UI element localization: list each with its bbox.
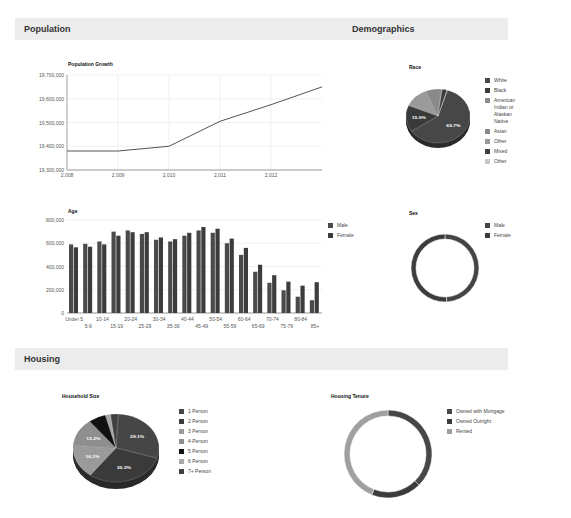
donut-slice[interactable] <box>388 410 432 485</box>
age-bar-female[interactable] <box>159 237 163 313</box>
legend-item[interactable]: Black <box>485 87 525 94</box>
age-bar-male[interactable] <box>69 244 73 313</box>
legend-item[interactable]: Asian <box>485 128 525 135</box>
age-bar-female[interactable] <box>173 239 177 313</box>
legend-item[interactable]: Mixed <box>485 148 525 155</box>
age-bar-female[interactable] <box>88 247 92 313</box>
legend-swatch <box>179 469 184 474</box>
legend-label: 7+ Person <box>188 468 211 475</box>
donut-slice[interactable] <box>344 410 388 495</box>
x-tick-label: 75-79 <box>280 323 293 329</box>
svg-text:60.7%: 60.7% <box>446 124 460 129</box>
age-bar-female[interactable] <box>145 232 149 313</box>
legend-item[interactable]: 7+ Person <box>179 468 211 475</box>
age-bar-female[interactable] <box>258 265 262 313</box>
age-bar-male[interactable] <box>197 230 201 313</box>
age-bar-male[interactable] <box>282 290 286 313</box>
legend-item[interactable]: Male <box>485 222 511 229</box>
legend-item[interactable]: Other <box>485 158 525 165</box>
y-tick-label: 600,000 <box>46 240 64 246</box>
age-bar-male[interactable] <box>168 242 172 313</box>
legend-swatch <box>179 409 184 414</box>
y-tick-label: 19,600,000 <box>39 96 64 102</box>
legend-label: Rented <box>456 428 472 435</box>
legend-label: 5 Person <box>188 448 208 455</box>
legend-swatch <box>328 233 333 238</box>
donut-slice[interactable] <box>372 481 419 498</box>
age-bar-male[interactable] <box>267 283 271 313</box>
donut-slice[interactable] <box>411 234 447 302</box>
age-bar-female[interactable] <box>187 233 191 313</box>
legend-label: 3 Person <box>188 428 208 435</box>
legend-item[interactable]: White <box>485 77 525 84</box>
age-bar-female[interactable] <box>286 282 290 313</box>
svg-text:15.9%: 15.9% <box>412 116 426 121</box>
x-tick-label: 30-34 <box>153 316 166 322</box>
x-tick-label: 2,012 <box>265 172 278 178</box>
age-bar-female[interactable] <box>102 244 106 313</box>
age-bar-male[interactable] <box>239 255 243 313</box>
legend-item[interactable]: 6 Person <box>179 458 211 465</box>
age-bar-female[interactable] <box>116 236 120 313</box>
legend-label: 1 Person <box>188 408 208 415</box>
age-bar-male[interactable] <box>296 297 300 313</box>
legend-label: White <box>494 77 507 84</box>
age-bar-female[interactable] <box>201 227 205 313</box>
legend-label: Female <box>337 232 354 239</box>
age-bar-male[interactable] <box>126 230 130 313</box>
race-pie-chart: 60.7%15.9% <box>404 86 484 166</box>
x-tick-label: 40-44 <box>181 316 194 322</box>
sex-legend: MaleFemale <box>485 222 511 242</box>
legend-swatch <box>485 129 490 134</box>
legend-item[interactable]: 3 Person <box>179 428 211 435</box>
age-bar-male[interactable] <box>140 234 144 313</box>
legend-item[interactable]: 5 Person <box>179 448 211 455</box>
age-bar-female[interactable] <box>230 239 234 313</box>
legend-swatch <box>447 409 452 414</box>
x-tick-label: 60-64 <box>238 316 251 322</box>
legend-swatch <box>485 88 490 93</box>
age-bar-female[interactable] <box>130 232 134 313</box>
x-tick-label: 2,010 <box>163 172 176 178</box>
legend-item[interactable]: Other <box>485 138 525 145</box>
legend-item[interactable]: Female <box>485 232 511 239</box>
age-bar-female[interactable] <box>215 229 219 313</box>
legend-item[interactable]: American Indian or Alaskan Native <box>485 97 525 125</box>
legend-swatch <box>179 439 184 444</box>
age-bar-female[interactable] <box>74 247 78 313</box>
legend-item[interactable]: Owned with Mortgage <box>447 408 505 415</box>
age-bar-female[interactable] <box>244 248 248 313</box>
age-bar-male[interactable] <box>211 233 215 313</box>
race-legend: WhiteBlackAmerican Indian or Alaskan Nat… <box>485 77 525 168</box>
age-bar-female[interactable] <box>272 275 276 313</box>
age-bar-male[interactable] <box>112 232 116 313</box>
legend-item[interactable]: 4 Person <box>179 438 211 445</box>
population-growth-title: Population Growth <box>68 61 113 67</box>
x-tick-label: 80-84 <box>294 316 307 322</box>
age-bar-male[interactable] <box>225 243 229 313</box>
age-bar-female[interactable] <box>315 282 319 313</box>
legend-item[interactable]: 1 Person <box>179 408 211 415</box>
age-bar-male[interactable] <box>97 242 101 313</box>
age-bar-male[interactable] <box>253 272 257 313</box>
legend-item[interactable]: Owned Outright <box>447 418 505 425</box>
x-tick-label: 25-29 <box>139 323 152 329</box>
sex-donut-chart <box>409 232 481 304</box>
donut-slice[interactable] <box>445 234 479 302</box>
y-tick-label: 800,000 <box>46 217 64 223</box>
age-bar-female[interactable] <box>300 286 304 313</box>
x-tick-label: 2,009 <box>112 172 125 178</box>
age-bar-male[interactable] <box>83 244 87 313</box>
age-bar-male[interactable] <box>310 300 314 313</box>
x-tick-label: 65-69 <box>252 323 265 329</box>
legend-swatch <box>328 223 333 228</box>
legend-item[interactable]: Female <box>328 232 354 239</box>
legend-item[interactable]: Rented <box>447 428 505 435</box>
household-size-pie-chart: 29.1%30.3%16.1%13.2% <box>72 410 162 500</box>
legend-item[interactable]: Male <box>328 222 354 229</box>
population-growth-chart <box>67 75 322 170</box>
age-bar-male[interactable] <box>154 240 158 313</box>
legend-label: Male <box>337 222 348 229</box>
age-bar-male[interactable] <box>182 236 186 313</box>
legend-item[interactable]: 2 Person <box>179 418 211 425</box>
